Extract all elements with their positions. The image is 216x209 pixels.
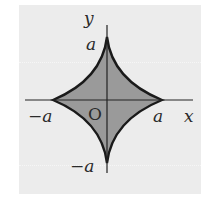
astroid-figure <box>0 0 216 209</box>
origin-label: O <box>88 106 102 123</box>
bottom-cusp-label: −a <box>70 158 94 175</box>
top-cusp-label: a <box>86 36 96 53</box>
y-axis-label: y <box>84 10 94 27</box>
x-axis-label: x <box>184 108 194 125</box>
right-cusp-label: a <box>153 108 163 125</box>
left-cusp-label: −a <box>28 108 52 125</box>
